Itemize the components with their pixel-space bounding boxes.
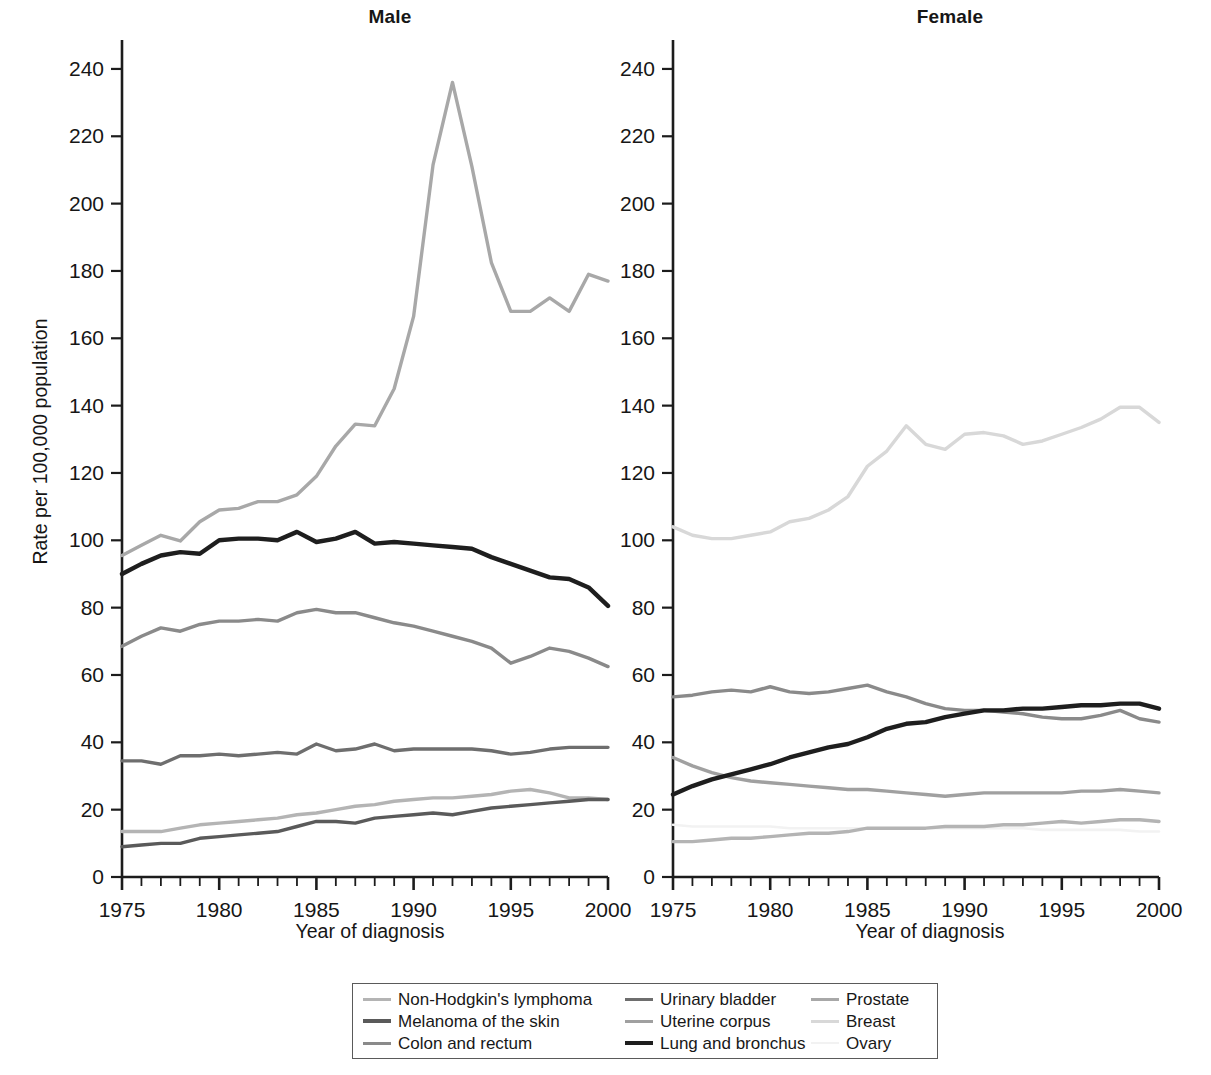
x-tick-label: 2000 [1136, 898, 1183, 921]
legend-entry: Breast [811, 1013, 941, 1030]
legend-label: Melanoma of the skin [398, 1013, 560, 1030]
legend-swatch-icon [625, 998, 653, 1001]
legend-swatch-icon [811, 1020, 839, 1023]
y-tick-label: 100 [620, 528, 655, 551]
legend-entry: Urinary bladder [625, 991, 811, 1008]
x-tick-label: 1980 [747, 898, 794, 921]
y-tick-label: 180 [620, 259, 655, 282]
legend-entry: Colon and rectum [363, 1035, 625, 1052]
legend-swatch-icon [363, 1042, 391, 1045]
legend-entry: Prostate [811, 991, 941, 1008]
y-tick-label: 40 [632, 730, 655, 753]
series-line-breast [673, 407, 1159, 538]
x-tick-label: 1985 [844, 898, 891, 921]
legend-entry: Non-Hodgkin's lymphoma [363, 991, 625, 1008]
legend-swatch-icon [363, 1019, 391, 1023]
series-line-uterine-corpus [673, 757, 1159, 796]
legend-label: Uterine corpus [660, 1013, 771, 1030]
legend-swatch-icon [625, 1020, 653, 1023]
y-tick-label: 220 [620, 124, 655, 147]
legend-label: Lung and bronchus [660, 1035, 806, 1052]
x-tick-label: 1995 [1038, 898, 1085, 921]
y-tick-label: 0 [643, 865, 655, 888]
legend-entry: Uterine corpus [625, 1013, 811, 1030]
legend-label: Non-Hodgkin's lymphoma [398, 991, 592, 1008]
legend-swatch-icon [625, 1041, 653, 1045]
legend-swatch-icon [363, 998, 391, 1001]
legend-label: Breast [846, 1013, 895, 1030]
legend-swatch-icon [811, 998, 839, 1001]
figure-root: Male Female Rate per 100,000 population … [0, 0, 1211, 1075]
y-tick-label: 200 [620, 192, 655, 215]
legend: Non-Hodgkin's lymphomaUrinary bladderPro… [352, 983, 938, 1059]
x-tick-label: 1975 [650, 898, 697, 921]
y-tick-label: 140 [620, 394, 655, 417]
legend-swatch-icon [811, 1042, 839, 1044]
y-tick-label: 160 [620, 326, 655, 349]
legend-entry: Lung and bronchus [625, 1035, 811, 1052]
legend-entry: Ovary [811, 1035, 941, 1052]
y-tick-label: 60 [632, 663, 655, 686]
legend-label: Urinary bladder [660, 991, 776, 1008]
y-tick-label: 20 [632, 798, 655, 821]
y-tick-label: 80 [632, 596, 655, 619]
x-tick-label: 1990 [941, 898, 988, 921]
legend-label: Colon and rectum [398, 1035, 532, 1052]
legend-label: Ovary [846, 1035, 891, 1052]
y-tick-label: 240 [620, 57, 655, 80]
legend-label: Prostate [846, 991, 909, 1008]
legend-entry: Melanoma of the skin [363, 1013, 625, 1030]
plot-area-female: 0204060801001201401601802002202401975198… [0, 0, 1211, 1075]
y-tick-label: 120 [620, 461, 655, 484]
